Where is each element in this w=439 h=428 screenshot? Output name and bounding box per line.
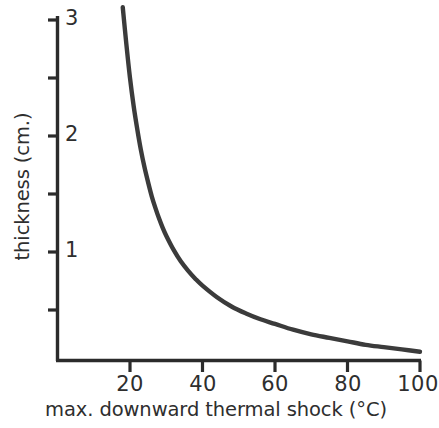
x-axis-ticks <box>130 361 420 373</box>
x-tick-label-60: 60 <box>261 374 289 395</box>
x-axis-title: max. downward thermal shock (°C) <box>0 398 432 421</box>
y-tick-label-2: 2 <box>65 124 79 145</box>
x-tick-label-20: 20 <box>116 374 144 395</box>
y-axis-title: thickness (cm.) <box>11 92 34 282</box>
data-curve <box>123 7 420 352</box>
y-tick-label-1: 1 <box>65 240 79 261</box>
x-tick-label-100: 100 <box>397 374 439 395</box>
y-tick-label-3: 3 <box>65 8 79 29</box>
x-tick-label-80: 80 <box>334 374 362 395</box>
x-tick-label-40: 40 <box>189 374 217 395</box>
